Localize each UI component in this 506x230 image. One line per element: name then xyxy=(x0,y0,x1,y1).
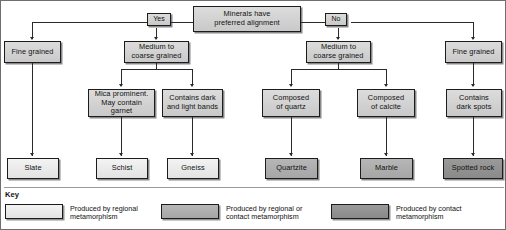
legend-swatch-regional xyxy=(5,204,63,219)
arrow-slate xyxy=(30,153,34,156)
result-marble-label: Marble xyxy=(375,164,398,173)
arrow-schist xyxy=(119,153,123,156)
arrow-dark-light-bands xyxy=(190,84,194,87)
result-marble: Marble xyxy=(360,158,413,179)
result-slate: Slate xyxy=(7,158,59,179)
arrow-gneiss xyxy=(190,153,194,156)
arrow-dark-spots xyxy=(471,84,475,87)
arrow-medium-left xyxy=(154,37,158,40)
node-composed-calcite: Composed of calcite xyxy=(357,89,415,117)
node-fine-grained-right-label: Fine grained xyxy=(453,48,495,57)
legend-swatch-contact xyxy=(331,204,389,219)
arrow-fine-left xyxy=(30,37,34,40)
branch-label-yes: Yes xyxy=(147,13,171,26)
legend-item-contact: Produced by contact metamorphism xyxy=(331,204,462,222)
node-composed-quartz-label: Composed of quartz xyxy=(273,94,309,111)
root-node-minerals-alignment: Minerals have preferred alignment xyxy=(193,6,301,32)
node-dark-light-bands-label: Contains dark and light bands xyxy=(167,94,218,111)
connector-fine-right-to-spots xyxy=(473,63,474,86)
arrow-quartzite xyxy=(289,153,293,156)
result-slate-label: Slate xyxy=(24,164,41,173)
connector-medium-left-bar xyxy=(121,69,192,70)
arrow-marble xyxy=(384,153,388,156)
connector-bands-to-gneiss xyxy=(192,117,193,156)
connector-root-to-yes xyxy=(171,22,193,23)
legend-swatch-regional-contact xyxy=(161,204,219,219)
connector-top-right-bar xyxy=(351,22,473,23)
result-gneiss: Gneiss xyxy=(167,158,219,179)
result-spotted-rock-label: Spotted rock xyxy=(452,164,494,173)
key-divider xyxy=(4,187,504,188)
arrow-fine-right xyxy=(471,37,475,40)
result-gneiss-label: Gneiss xyxy=(181,164,204,173)
connector-fine-left-to-slate xyxy=(32,63,33,156)
node-fine-grained-left-label: Fine grained xyxy=(12,48,54,57)
node-composed-calcite-label: Composed of calcite xyxy=(368,94,404,111)
connector-calcite-to-marble xyxy=(386,117,387,156)
node-mica-prominent: Mica prominent. May contain garnet xyxy=(88,89,155,117)
node-medium-coarse-left-label: Medium to coarse grained xyxy=(132,43,182,60)
connector-mica-to-schist xyxy=(121,117,122,156)
arrow-mica-prominent xyxy=(119,84,123,87)
result-quartzite: Quartzite xyxy=(265,158,318,179)
connector-top-left-bar xyxy=(32,22,147,23)
arrow-composed-quartz xyxy=(289,84,293,87)
node-medium-coarse-right-label: Medium to coarse grained xyxy=(314,43,364,60)
result-quartzite-label: Quartzite xyxy=(276,164,307,173)
node-dark-light-bands: Contains dark and light bands xyxy=(162,89,223,117)
node-composed-quartz: Composed of quartz xyxy=(262,89,320,117)
legend-text-regional: Produced by regional metamorphism xyxy=(70,204,138,222)
metamorphic-rock-flowchart: Minerals have preferred alignment Yes No… xyxy=(0,0,506,230)
legend-item-regional: Produced by regional metamorphism xyxy=(5,204,138,222)
arrow-medium-right xyxy=(336,37,340,40)
node-fine-grained-right: Fine grained xyxy=(445,41,502,63)
connector-spots-to-spotted-rock xyxy=(473,117,474,156)
node-contains-dark-spots: Contains dark spots xyxy=(446,89,502,117)
branch-label-no: No xyxy=(325,13,347,26)
root-node-label: Minerals have preferred alignment xyxy=(214,10,280,27)
node-fine-grained-left: Fine grained xyxy=(4,41,61,63)
arrow-composed-calcite xyxy=(384,84,388,87)
result-schist-label: Schist xyxy=(112,164,133,173)
node-contains-dark-spots-label: Contains dark spots xyxy=(457,94,492,111)
legend-text-contact: Produced by contact metamorphism xyxy=(396,204,462,222)
arrow-spotted-rock xyxy=(471,153,475,156)
key-title: Key xyxy=(5,190,19,199)
branch-label-yes-text: Yes xyxy=(153,15,165,24)
connector-medium-right-bar xyxy=(291,69,386,70)
node-mica-prominent-label: Mica prominent. May contain garnet xyxy=(91,90,152,116)
result-spotted-rock: Spotted rock xyxy=(443,158,503,179)
legend-text-regional-contact: Produced by regional or contact metamorp… xyxy=(226,204,302,222)
branch-label-no-text: No xyxy=(331,15,340,24)
connector-quartz-to-quartzite xyxy=(291,117,292,156)
node-medium-coarse-left: Medium to coarse grained xyxy=(124,41,189,63)
legend-item-regional-contact: Produced by regional or contact metamorp… xyxy=(161,204,302,222)
node-medium-coarse-right: Medium to coarse grained xyxy=(306,41,371,63)
result-schist: Schist xyxy=(96,158,148,179)
connector-root-to-no xyxy=(301,22,325,23)
